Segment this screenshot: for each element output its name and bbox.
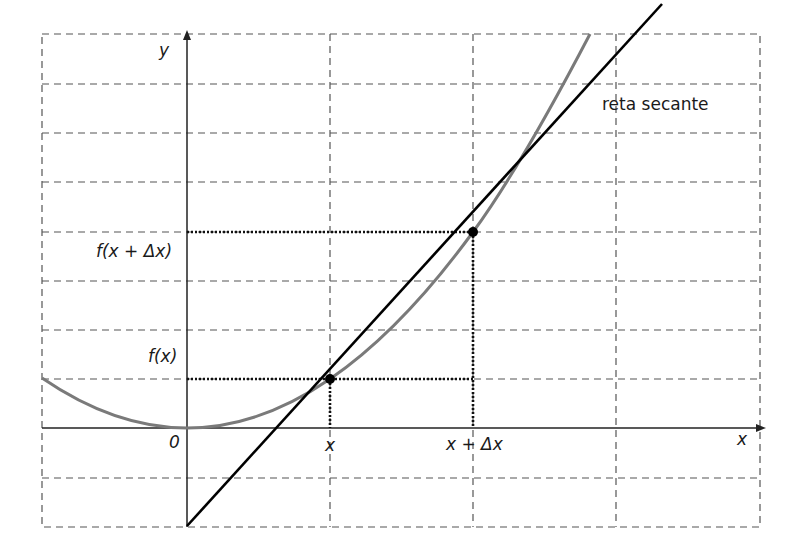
x-axis-arrow-icon	[756, 424, 766, 432]
secant-line	[187, 4, 662, 526]
x-tick-label: x	[325, 435, 335, 455]
fx-plus-dx-label: f(x + Δx)	[96, 241, 172, 261]
y-axis-label: y	[159, 40, 169, 60]
secant-label: reta secante	[602, 94, 709, 114]
point-x	[325, 374, 335, 384]
point-x-plus-dx	[468, 227, 478, 237]
x-axis-label: x	[737, 429, 747, 449]
fx-label: f(x)	[148, 346, 177, 366]
secant-diagram	[0, 0, 802, 557]
y-axis-arrow-icon	[183, 30, 191, 40]
x-plus-dx-tick-label: x + Δx	[446, 434, 503, 454]
origin-label: 0	[169, 432, 180, 452]
